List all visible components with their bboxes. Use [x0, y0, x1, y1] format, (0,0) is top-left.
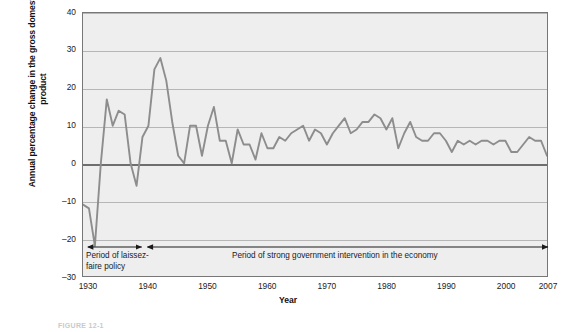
- x-tick-2000: 2000: [486, 281, 526, 291]
- government-intervention-annotation-label: Period of strong government intervention…: [232, 250, 562, 261]
- x-tick-1940: 1940: [128, 281, 168, 291]
- x-axis-label: Year: [0, 295, 576, 305]
- x-tick-2007: 2007: [528, 281, 568, 291]
- figure-caption: FIGURE 12-1: [58, 322, 104, 329]
- gdp-change-figure: Annual percentage change in the gross do…: [0, 0, 576, 332]
- x-tick-1960: 1960: [247, 281, 287, 291]
- x-tick-1970: 1970: [307, 281, 347, 291]
- x-tick-1980: 1980: [367, 281, 407, 291]
- x-tick-1950: 1950: [187, 281, 227, 291]
- x-axis-tick-labels: 193019401950196019701980199020002007: [0, 0, 576, 332]
- laissez-faire-annotation-label: Period of laissez- faire policy: [86, 250, 196, 272]
- x-tick-1990: 1990: [426, 281, 466, 291]
- x-tick-1930: 1930: [68, 281, 108, 291]
